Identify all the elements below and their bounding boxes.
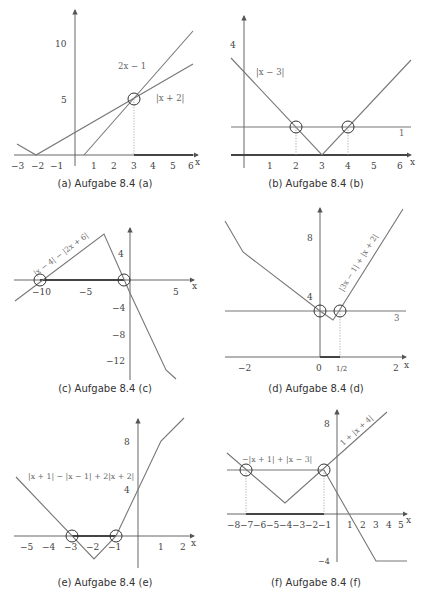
x-tick: 5 xyxy=(371,161,377,171)
x-tick: −4 xyxy=(279,520,293,530)
x-tick: 2 xyxy=(111,161,117,171)
x-tick: 2 xyxy=(393,363,399,373)
x-tick: −5 xyxy=(79,287,93,297)
x-tick: −3 xyxy=(64,542,78,552)
series-c xyxy=(15,234,176,379)
x-tick: −2 xyxy=(31,161,44,171)
series-label: 1 xyxy=(399,128,404,138)
x-tick: −8 xyxy=(227,520,241,530)
x-tick: −2 xyxy=(86,542,99,552)
y-tick: 4 xyxy=(118,249,124,259)
caption: (a) Aufgabe 8.4 (a) xyxy=(58,178,153,189)
x-tick: 1 xyxy=(158,542,164,552)
x-label: x xyxy=(406,515,411,525)
plot-e: 8 4 −5 −4 −3 −2 −1 1 2 x |x + 1| − |x − … xyxy=(14,418,196,588)
caption: (b) Aufgabe 8.4 (b) xyxy=(268,178,364,189)
x-tick: −10 xyxy=(32,287,51,297)
x-tick: 5 xyxy=(173,287,179,297)
x-tick: 2 xyxy=(180,542,186,552)
x-tick: −1 xyxy=(108,542,121,552)
x-tick: 3 xyxy=(319,161,325,171)
series-d xyxy=(225,209,403,320)
series-label: 2x − 1 xyxy=(118,61,146,71)
plot-c: 4 −4 −8 −12 −10 −5 5 x |x − 4| − |2x + 6… xyxy=(14,228,197,394)
x-tick: −3 xyxy=(11,161,25,171)
series-label: 1 + |x + 4| xyxy=(338,413,374,447)
x-tick: 2 xyxy=(360,520,366,530)
y-tick: 10 xyxy=(55,39,67,49)
x-tick: 1 xyxy=(347,520,353,530)
y-tick: −12 xyxy=(106,356,125,366)
y-tick: 4 xyxy=(124,485,130,495)
y-tick: −4 xyxy=(112,303,126,313)
y-tick: 4 xyxy=(230,40,236,50)
y-tick: 8 xyxy=(324,419,330,429)
x-tick: −4 xyxy=(42,542,56,552)
x-tick: 3 xyxy=(131,161,137,171)
x-label: x xyxy=(191,538,196,548)
x-tick: −2 xyxy=(305,520,318,530)
x-tick: −1 xyxy=(50,161,63,171)
x-tick: 2 xyxy=(293,161,299,171)
x-tick: 5 xyxy=(170,161,176,171)
x-tick: 6 xyxy=(188,161,194,171)
x-tick: 3 xyxy=(373,520,379,530)
x-tick: −7 xyxy=(240,520,254,530)
series-label: −|x + 1| + |x − 3| xyxy=(242,455,312,464)
caption: (c) Aufgabe 8.4 (c) xyxy=(58,383,152,394)
x-label: x xyxy=(192,281,197,291)
series-f1 xyxy=(227,470,407,561)
x-tick: 6 xyxy=(397,161,403,171)
x-label: x xyxy=(410,157,415,167)
x-tick: 4 xyxy=(345,161,351,171)
caption: (e) Aufgabe 8.4 (e) xyxy=(57,577,152,588)
plot-b: 4 1 2 3 4 5 6 x |x − 3| 1 (b) Aufgabe 8.… xyxy=(230,16,415,189)
x-tick: −5 xyxy=(20,542,34,552)
y-tick: 4 xyxy=(307,292,313,302)
plot-f: 8 −4 −8 −7 −6 −5 −4 −3 −2 −1 1 2 3 4 5 x… xyxy=(227,410,411,588)
x-tick: −3 xyxy=(292,520,306,530)
x-tick: 0 xyxy=(316,363,322,373)
x-tick: 1/2 xyxy=(336,365,347,373)
series-label: |x + 1| − |x − 1| + 2|x + 2| xyxy=(28,472,134,481)
x-label: x xyxy=(404,360,409,370)
x-tick: −2 xyxy=(238,363,251,373)
series-label: |3x − 1| + |x + 2| xyxy=(337,232,380,293)
series-label: |x + 2| xyxy=(156,93,184,104)
series-abs-x-plus-2 xyxy=(17,64,193,155)
y-tick: −8 xyxy=(112,330,126,340)
x-label: x xyxy=(195,157,200,167)
x-tick: 5 xyxy=(398,520,404,530)
series-label: |x − 3| xyxy=(256,67,284,78)
caption: (f) Aufgabe 8.4 (f) xyxy=(271,577,361,588)
x-tick: −5 xyxy=(266,520,280,530)
x-tick: 4 xyxy=(386,520,392,530)
y-tick: 8 xyxy=(124,437,130,447)
caption: (d) Aufgabe 8.4 (d) xyxy=(268,383,364,394)
y-tick: 5 xyxy=(61,95,67,105)
x-tick: 1 xyxy=(267,161,273,171)
x-tick: 1 xyxy=(91,161,97,171)
x-tick: 4 xyxy=(150,161,156,171)
plot-a: 10 5 −3 −2 −1 1 2 3 4 5 6 x 2x − 1 |x + … xyxy=(11,10,200,189)
plot-d: 8 4 −2 0 1/2 2 x 3 |3x − 1| + |x + 2| (d… xyxy=(225,208,409,394)
x-tick: −1 xyxy=(318,520,331,530)
x-tick: −6 xyxy=(253,520,267,530)
y-tick: −4 xyxy=(318,557,330,566)
y-tick: 8 xyxy=(307,233,313,243)
series-label: |x − 4| − |2x + 6| xyxy=(32,231,90,278)
figure-grid: 10 5 −3 −2 −1 1 2 3 4 5 6 x 2x − 1 |x + … xyxy=(0,0,422,599)
series-e xyxy=(16,418,184,559)
series-label: 3 xyxy=(394,313,399,323)
